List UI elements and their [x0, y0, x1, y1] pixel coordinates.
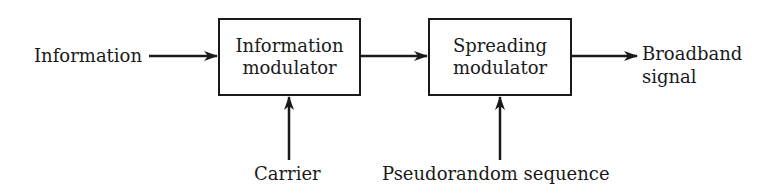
- spreading-modulator-block: Spreading modulator: [428, 18, 572, 96]
- carrier-input-label: Carrier: [254, 163, 321, 185]
- information-input-label: Information: [34, 45, 142, 67]
- spreading-modulator-line2: modulator: [453, 57, 547, 79]
- broadband-output-line1: Broadband: [642, 43, 742, 65]
- spreading-modulator-line1: Spreading: [453, 35, 547, 57]
- broadband-output-line2: signal: [642, 66, 697, 88]
- information-modulator-line2: modulator: [242, 57, 336, 79]
- block-diagram: Information Information modulator Spread…: [0, 0, 769, 194]
- information-modulator-block: Information modulator: [218, 18, 361, 96]
- pseudorandom-input-label: Pseudorandom sequence: [382, 163, 610, 185]
- information-modulator-line1: Information: [235, 35, 343, 57]
